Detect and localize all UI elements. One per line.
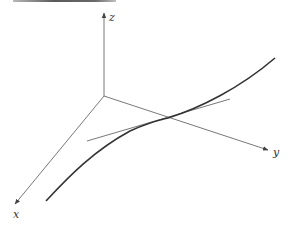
z-axis-label: z [108,11,115,24]
space-curve [46,58,275,201]
x-axis-label: x [13,208,20,221]
y-axis [104,96,268,150]
diagram-canvas: z y x [0,0,293,229]
y-axis-label: y [272,146,280,159]
